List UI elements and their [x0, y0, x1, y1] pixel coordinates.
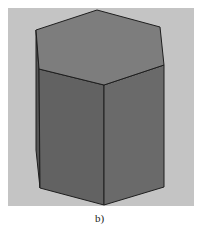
prism-left-face [39, 69, 104, 205]
hexagonal-prism-illustration [0, 0, 199, 230]
figure: b) [0, 0, 199, 230]
figure-caption: b) [0, 212, 199, 224]
prism-right-face [104, 65, 164, 205]
